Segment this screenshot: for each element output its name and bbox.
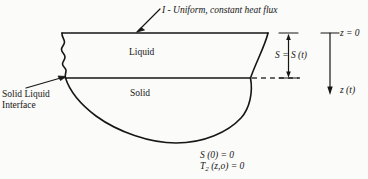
- interface-leader-line: [26, 77, 64, 88]
- melt-pool-diagram: I - Uniform, constant heat flux Liquid S…: [0, 0, 368, 179]
- solid-liquid-interface-label: Solid Liquid Interface: [2, 89, 50, 111]
- s-dimension-label: S = S (t): [275, 50, 307, 61]
- initial-depth-condition: S (0) = 0: [200, 150, 244, 161]
- pool-right-wall-upper: [251, 33, 269, 78]
- z-depth-label: z (t): [340, 85, 355, 96]
- interface-label-line-2: Interface: [2, 100, 50, 111]
- initial-conditions-block: S (0) = 0 T2 (z,o) = 0: [200, 150, 244, 173]
- initial-temperature-condition: T2 (z,o) = 0: [200, 161, 244, 173]
- interface-label-line-1: Solid Liquid: [2, 89, 50, 100]
- heat-flux-symbol: I - Uniform, constant heat flux: [162, 5, 278, 15]
- diagram-vector-layer: [0, 0, 368, 179]
- solidification-front-curve: [66, 78, 252, 143]
- solid-region-label: Solid: [130, 88, 150, 99]
- z-origin-label: z = 0: [340, 28, 360, 39]
- pool-left-wall: [62, 33, 67, 78]
- temperature-argument: (z,o) = 0: [209, 161, 244, 171]
- s-dimension-lower-arrowhead: [286, 72, 291, 78]
- z-axis-arrowhead: [327, 87, 332, 96]
- heat-flux-leader-arrowhead: [137, 28, 145, 33]
- s-dimension-upper-arrowhead: [286, 34, 291, 40]
- heat-flux-label: I - Uniform, constant heat flux: [162, 5, 278, 16]
- liquid-region-label: Liquid: [129, 47, 154, 58]
